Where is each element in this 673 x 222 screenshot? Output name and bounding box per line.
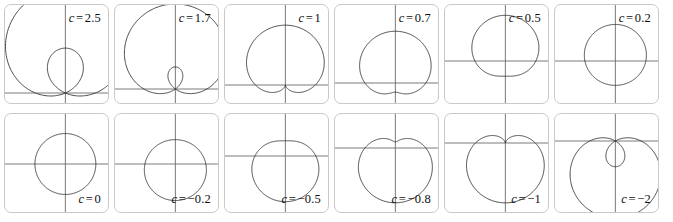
label-variable: c: [619, 11, 625, 25]
limacon-panel-6: c=0: [4, 113, 109, 213]
label-value: 0.7: [415, 11, 431, 25]
label-equals-sign: =: [84, 192, 94, 206]
panel-label-c-1: c=1.7: [179, 12, 211, 25]
label-variable: c: [179, 11, 185, 25]
label-value: −1: [527, 192, 541, 206]
panel-label-c-0: c=2.5: [69, 12, 101, 25]
limacon-panel-1: c=1.7: [114, 4, 219, 104]
limacon-panel-10: c=−1: [444, 113, 549, 213]
label-value: 1: [315, 11, 321, 25]
label-value: 0: [95, 192, 101, 206]
label-variable: c: [399, 11, 405, 25]
panel-label-c-6: c=0: [79, 193, 101, 206]
label-equals-sign: =: [517, 192, 527, 206]
label-value: 0.5: [525, 11, 541, 25]
label-value: −0.5: [298, 192, 321, 206]
panel-label-c-11: c=−2: [621, 193, 651, 206]
limacon-panel-0: c=2.5: [4, 4, 109, 104]
label-equals-sign: =: [405, 11, 415, 25]
label-equals-sign: =: [75, 11, 85, 25]
panel-label-c-2: c=1: [299, 12, 321, 25]
panel-label-c-3: c=0.7: [399, 12, 431, 25]
label-equals-sign: =: [625, 11, 635, 25]
panel-label-c-9: c=−0.8: [392, 193, 431, 206]
label-value: −0.8: [408, 192, 431, 206]
limacon-panel-5: c=0.2: [554, 4, 659, 104]
limacon-panel-7: c=−0.2: [114, 113, 219, 213]
label-variable: c: [69, 11, 75, 25]
label-equals-sign: =: [515, 11, 525, 25]
label-value: 0.2: [635, 11, 651, 25]
limacon-figure: c=2.5c=1.7c=1c=0.7c=0.5c=0.2 c=0c=−0.2c=…: [0, 0, 673, 222]
label-equals-sign: =: [177, 192, 187, 206]
label-equals-sign: =: [287, 192, 297, 206]
label-value: −0.2: [188, 192, 211, 206]
label-equals-sign: =: [185, 11, 195, 25]
label-value: 1.7: [195, 11, 211, 25]
panel-label-c-10: c=−1: [511, 193, 541, 206]
label-equals-sign: =: [397, 192, 407, 206]
limacon-panel-8: c=−0.5: [224, 113, 329, 213]
panel-label-c-5: c=0.2: [619, 12, 651, 25]
limacon-panel-3: c=0.7: [334, 4, 439, 104]
label-variable: c: [509, 11, 515, 25]
limacon-panel-9: c=−0.8: [334, 113, 439, 213]
panel-label-c-7: c=−0.2: [172, 193, 211, 206]
panel-row-top: c=2.5c=1.7c=1c=0.7c=0.5c=0.2: [4, 4, 669, 104]
limacon-panel-11: c=−2: [554, 113, 659, 213]
label-value: −2: [637, 192, 651, 206]
label-value: 2.5: [85, 11, 101, 25]
panel-label-c-8: c=−0.5: [282, 193, 321, 206]
limacon-panel-4: c=0.5: [444, 4, 549, 104]
label-equals-sign: =: [304, 11, 314, 25]
panel-label-c-4: c=0.5: [509, 12, 541, 25]
panel-row-bottom: c=0c=−0.2c=−0.5c=−0.8c=−1c=−2: [4, 113, 669, 213]
label-equals-sign: =: [627, 192, 637, 206]
limacon-panel-2: c=1: [224, 4, 329, 104]
